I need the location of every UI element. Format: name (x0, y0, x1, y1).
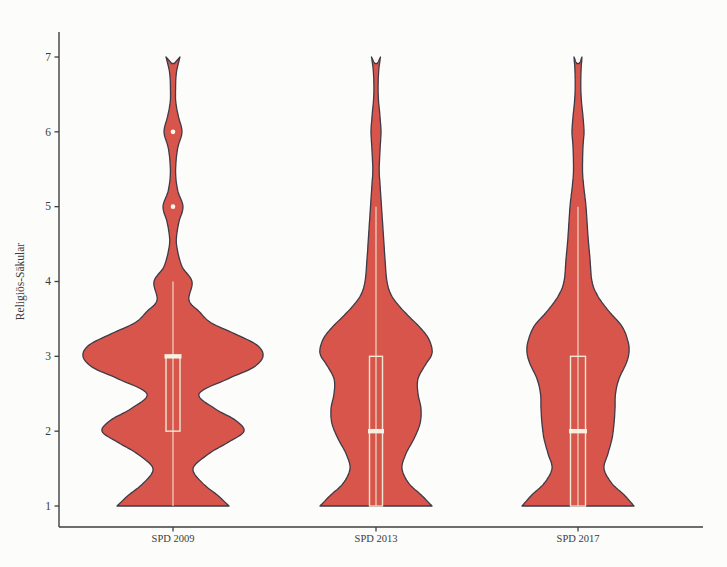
y-tick-label: 3 (45, 350, 51, 362)
x-category-label: SPD 2009 (152, 533, 195, 544)
boxplot-median-2 (368, 429, 384, 433)
x-category-label: SPD 2017 (557, 533, 600, 544)
violin-chart: 1234567Religiös-SäkularSPD 2009SPD 2013S… (0, 0, 727, 567)
boxplot-median-3 (569, 429, 587, 433)
y-axis-title: Religiös-Säkular (14, 243, 27, 320)
x-category-label: SPD 2013 (355, 533, 398, 544)
y-tick-label: 4 (45, 275, 51, 287)
y-tick-label: 1 (45, 500, 51, 512)
y-tick-label: 2 (45, 425, 51, 437)
outlier-dot-1-val7 (171, 58, 176, 63)
boxplot-median-1 (165, 354, 182, 358)
y-tick-label: 5 (45, 200, 51, 212)
y-tick-label: 7 (45, 51, 51, 63)
scanned-figure-page: 1234567Religiös-SäkularSPD 2009SPD 2013S… (0, 0, 727, 567)
outlier-dot-1-val6 (171, 130, 176, 135)
y-tick-label: 6 (45, 126, 51, 138)
outlier-dot-1-val5 (171, 204, 176, 209)
outlier-dot-2-val7 (374, 58, 379, 63)
outlier-dot-3-val7 (576, 58, 581, 63)
